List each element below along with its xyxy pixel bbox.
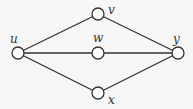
- node-label-v: v: [108, 3, 115, 17]
- node-y: [172, 47, 184, 59]
- node-u: [12, 47, 24, 59]
- edge-x-y: [98, 53, 178, 93]
- edge-u-v: [18, 14, 98, 53]
- node-label-y: y: [172, 32, 180, 46]
- node-w: [92, 47, 104, 59]
- node-x: [92, 87, 104, 99]
- edge-v-y: [98, 14, 178, 53]
- node-v: [92, 8, 104, 20]
- node-label-x: x: [108, 93, 115, 107]
- node-label-u: u: [10, 32, 18, 46]
- graph-diagram: uvwxy: [0, 0, 193, 109]
- node-label-w: w: [93, 31, 104, 45]
- edge-u-x: [18, 53, 98, 93]
